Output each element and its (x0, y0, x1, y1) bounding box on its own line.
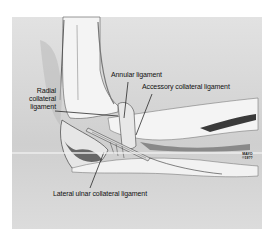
label-annular-ligament: Annular ligament (111, 71, 162, 79)
annular-ligament-band (118, 102, 136, 149)
mayo-copyright-mark: MAYO ©19?? (242, 152, 253, 160)
label-lateral-ulnar-collateral-ligament: Lateral ulnar collateral ligament (53, 190, 147, 198)
elbow-anatomy-illustration (0, 0, 275, 237)
label-accessory-collateral-ligament: Accessory collateral ligament (142, 83, 230, 91)
label-radial-collateral-ligament: Radial collateral ligament (14, 87, 56, 111)
humerus-bone (63, 17, 118, 119)
